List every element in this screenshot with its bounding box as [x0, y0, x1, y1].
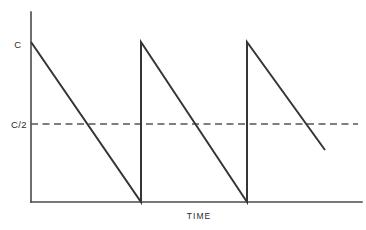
y-tick-label-peak: C [14, 39, 21, 50]
chart-canvas: C C/2 TIME [0, 0, 366, 230]
x-axis-title: TIME [187, 211, 212, 221]
sawtooth-chart: C C/2 TIME [0, 0, 366, 230]
y-tick-label-half: C/2 [11, 119, 27, 130]
sawtooth-waveform-path [31, 42, 325, 202]
